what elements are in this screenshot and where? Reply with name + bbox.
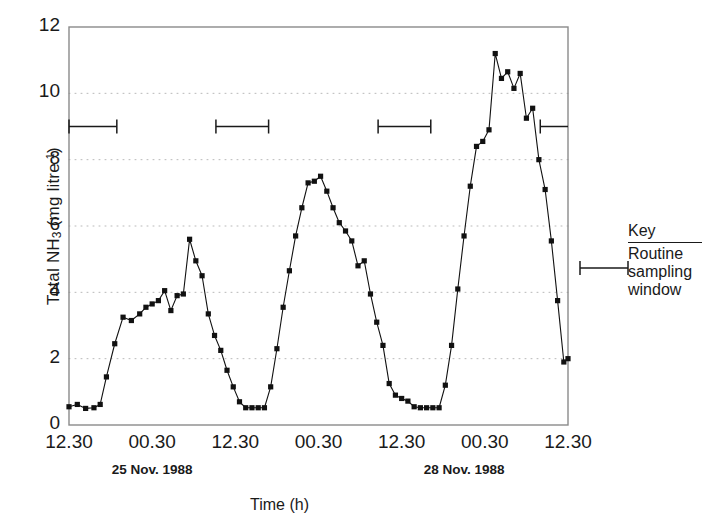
- data-point-marker: [493, 51, 498, 56]
- data-point-marker: [299, 205, 304, 210]
- data-point-marker: [224, 368, 229, 373]
- data-point-marker: [287, 268, 292, 273]
- data-point-marker: [306, 180, 311, 185]
- data-line: [69, 54, 568, 409]
- date-annotation: 25 Nov. 1988: [82, 462, 222, 477]
- data-point-marker: [75, 402, 80, 407]
- y-tick-label: 2: [24, 346, 60, 368]
- data-point-marker: [543, 187, 548, 192]
- key-marker-icon: [580, 261, 628, 275]
- key-description: Routine sampling window: [628, 243, 720, 299]
- data-point-marker: [237, 399, 242, 404]
- data-point-marker: [455, 286, 460, 291]
- data-point-marker: [499, 76, 504, 81]
- data-point-marker: [206, 311, 211, 316]
- plot-frame: [69, 27, 568, 425]
- sampling-window-marker: [216, 120, 269, 134]
- data-point-marker: [324, 189, 329, 194]
- data-point-marker: [393, 393, 398, 398]
- x-tick-label: 00.30: [445, 431, 525, 453]
- data-point-marker: [449, 343, 454, 348]
- y-tick-label: 4: [24, 279, 60, 301]
- key-title: Key: [628, 222, 702, 243]
- data-point-marker: [150, 301, 155, 306]
- y-tick-label: 8: [24, 147, 60, 169]
- data-point-marker: [318, 174, 323, 179]
- data-point-marker: [349, 238, 354, 243]
- data-point-marker: [343, 228, 348, 233]
- data-point-marker: [468, 184, 473, 189]
- data-point-marker: [511, 86, 516, 91]
- data-point-marker: [399, 396, 404, 401]
- figure-container: Total NH3 (mg litre-1) Time (h) 02468101…: [0, 0, 721, 531]
- data-point-marker: [193, 258, 198, 263]
- data-point-marker: [443, 383, 448, 388]
- data-point-marker: [181, 291, 186, 296]
- data-point-marker: [312, 179, 317, 184]
- data-point-marker: [461, 233, 466, 238]
- y-tick-label: 12: [24, 14, 60, 36]
- data-point-marker: [405, 399, 410, 404]
- data-point-marker: [424, 405, 429, 410]
- data-point-marker: [293, 233, 298, 238]
- data-point-marker: [218, 348, 223, 353]
- data-point-marker: [436, 405, 441, 410]
- x-tick-label: 12.30: [29, 431, 109, 453]
- data-point-marker: [66, 404, 71, 409]
- y-tick-label: 6: [24, 213, 60, 235]
- x-tick-label: 12.30: [195, 431, 275, 453]
- sampling-window-marker: [378, 120, 431, 134]
- data-point-marker: [243, 405, 248, 410]
- x-tick-label: 12.30: [362, 431, 442, 453]
- data-point-marker: [362, 258, 367, 263]
- y-tick-label: 10: [24, 80, 60, 102]
- data-point-marker: [262, 405, 267, 410]
- data-point-marker: [374, 320, 379, 325]
- data-point-marker: [212, 333, 217, 338]
- data-point-marker: [120, 315, 125, 320]
- data-point-marker: [256, 405, 261, 410]
- data-point-marker: [555, 298, 560, 303]
- data-point-marker: [418, 405, 423, 410]
- data-point-marker: [268, 384, 273, 389]
- data-point-marker: [480, 139, 485, 144]
- x-tick-label: 00.30: [279, 431, 359, 453]
- data-point-marker: [199, 273, 204, 278]
- data-point-marker: [274, 346, 279, 351]
- key-description-line-2: sampling: [628, 263, 720, 281]
- data-point-marker: [337, 220, 342, 225]
- date-annotation: 28 Nov. 1988: [394, 462, 534, 477]
- x-tick-label: 12.30: [528, 431, 608, 453]
- data-point-marker: [430, 405, 435, 410]
- data-point-marker: [249, 405, 254, 410]
- data-point-marker: [380, 343, 385, 348]
- data-point-marker: [156, 298, 161, 303]
- data-point-marker: [187, 237, 192, 242]
- data-point-marker: [175, 293, 180, 298]
- x-tick-label: 00.30: [112, 431, 192, 453]
- data-point-marker: [505, 69, 510, 74]
- data-point-marker: [91, 405, 96, 410]
- data-point-marker: [412, 404, 417, 409]
- key-legend: Key Routine sampling window: [628, 222, 720, 299]
- data-point-marker: [524, 116, 529, 121]
- data-point-marker: [168, 308, 173, 313]
- data-point-marker: [98, 402, 103, 407]
- data-point-marker: [137, 311, 142, 316]
- data-point-marker: [549, 238, 554, 243]
- sampling-window-marker: [69, 120, 117, 134]
- data-point-marker: [518, 71, 523, 76]
- data-point-marker: [387, 381, 392, 386]
- data-point-marker: [330, 205, 335, 210]
- data-point-marker: [530, 106, 535, 111]
- sampling-window-marker: [540, 120, 568, 134]
- data-point-marker: [162, 288, 167, 293]
- data-point-marker: [565, 356, 570, 361]
- data-point-marker: [281, 305, 286, 310]
- data-point-marker: [129, 318, 134, 323]
- data-point-marker: [143, 305, 148, 310]
- data-point-marker: [474, 144, 479, 149]
- key-description-line-1: Routine: [628, 245, 720, 263]
- data-point-marker: [355, 263, 360, 268]
- data-point-marker: [536, 157, 541, 162]
